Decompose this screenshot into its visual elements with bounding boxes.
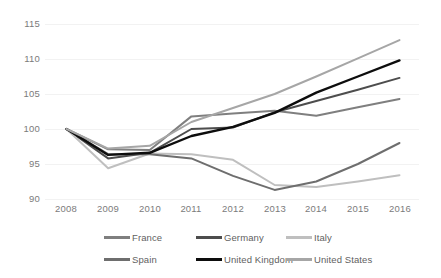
legend-row: Spain United Kingdom United States (0, 248, 441, 270)
xtick-label-2012: 2012 (213, 203, 253, 214)
xtick-label-2010: 2010 (130, 203, 170, 214)
legend-label: Italy (314, 232, 332, 243)
xtick-label-2016: 2016 (380, 203, 420, 214)
legend-entry-united-states[interactable]: United States (286, 254, 372, 265)
series-line-france (67, 99, 400, 150)
legend-label: United States (314, 254, 372, 265)
legend-swatch-icon (196, 258, 222, 261)
chart-legend: France Germany Italy Spain United Kingdo… (0, 222, 441, 278)
legend-swatch-icon (104, 236, 130, 239)
xtick-label-2011: 2011 (171, 203, 211, 214)
legend-swatch-icon (286, 236, 312, 239)
series-line-united-states (67, 40, 400, 149)
legend-entry-italy[interactable]: Italy (286, 232, 332, 243)
legend-row: France Germany Italy (0, 226, 441, 248)
xtick-label-2014: 2014 (296, 203, 336, 214)
legend-swatch-icon (286, 258, 312, 261)
xtick-label-2009: 2009 (88, 203, 128, 214)
legend-label: Germany (224, 232, 264, 243)
legend-label: France (132, 232, 162, 243)
series-line-germany (67, 78, 400, 158)
legend-label: United Kingdom (224, 254, 293, 265)
legend-entry-germany[interactable]: Germany (196, 232, 264, 243)
line-chart: 115 110 105 100 95 90 2008 2009 2010 201… (0, 0, 441, 278)
legend-swatch-icon (196, 236, 222, 239)
plot-area: 115 110 105 100 95 90 2008 2009 2010 201… (0, 0, 441, 215)
legend-swatch-icon (104, 258, 130, 261)
series-container (0, 0, 441, 215)
legend-entry-united-kingdom[interactable]: United Kingdom (196, 254, 293, 265)
legend-entry-france[interactable]: France (104, 232, 162, 243)
legend-label: Spain (132, 254, 157, 265)
xtick-label-2008: 2008 (46, 203, 86, 214)
xtick-label-2015: 2015 (338, 203, 378, 214)
legend-entry-spain[interactable]: Spain (104, 254, 157, 265)
xtick-label-2013: 2013 (255, 203, 295, 214)
